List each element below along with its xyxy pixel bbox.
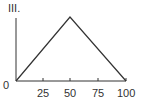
- x-tick-label-0: 0: [3, 80, 9, 91]
- x-tick-label-100: 100: [117, 88, 135, 99]
- x-tick-label-25: 25: [37, 88, 49, 99]
- data-line: [16, 17, 126, 81]
- panel-label: III.: [8, 3, 20, 14]
- x-tick-label-50: 50: [64, 88, 76, 99]
- x-tick-label-75: 75: [92, 88, 104, 99]
